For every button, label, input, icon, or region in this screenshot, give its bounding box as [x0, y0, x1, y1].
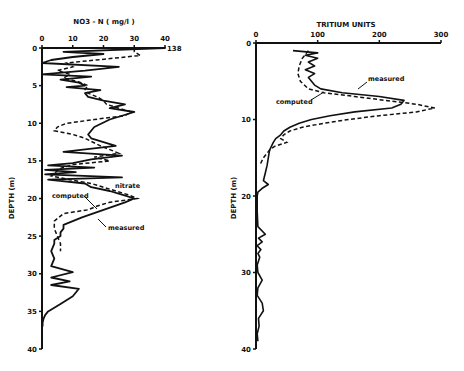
right-y-ticks: 010203040: [241, 40, 256, 354]
x-tick-label: 200: [372, 31, 387, 39]
left-x-axis-title: NO3 - N ( mg/l ): [73, 18, 134, 26]
x-tick-label: 10: [68, 35, 78, 43]
y-tick-label: 30: [27, 270, 37, 278]
left-overflow-label: 138: [167, 45, 182, 53]
right-annotation-measured: measured: [368, 75, 405, 83]
right-x-axis-title: TRITIUM UNITS: [316, 21, 375, 29]
y-tick-label: 15: [27, 157, 37, 165]
x-tick-label: 300: [434, 31, 449, 39]
right-y-axis-title: DEPTH (m): [230, 177, 238, 220]
left-annotation-nitrate: nitrate: [115, 182, 141, 190]
left-annotation-computed: computed: [52, 192, 89, 200]
x-tick-label: 0: [40, 35, 45, 43]
left-x-ticks: 010203040: [40, 35, 170, 48]
figure: NO3 - N ( mg/l ) 010203040 0510152025303…: [0, 0, 464, 371]
nitrate-depth-chart: NO3 - N ( mg/l ) 010203040 0510152025303…: [8, 18, 182, 354]
left-measured-leader: [98, 219, 106, 227]
right-computed-line: [260, 51, 435, 166]
y-tick-label: 30: [241, 269, 251, 277]
y-tick-label: 35: [27, 308, 37, 316]
y-tick-label: 0: [32, 45, 37, 53]
y-tick-label: 40: [241, 346, 251, 354]
x-tick-label: 100: [310, 31, 325, 39]
left-y-axis-title: DEPTH (m): [8, 177, 16, 220]
right-annotation-computed: computed: [276, 98, 313, 106]
y-tick-label: 20: [27, 195, 37, 203]
x-tick-label: 40: [160, 35, 170, 43]
left-annotation-measured: measured: [108, 224, 145, 232]
tritium-depth-chart: TRITIUM UNITS 0100200300 010203040 DEPTH…: [230, 21, 448, 354]
y-tick-label: 0: [246, 40, 251, 48]
x-tick-label: 30: [129, 35, 139, 43]
y-tick-label: 25: [27, 233, 37, 241]
left-y-ticks: 0510152025303540: [27, 45, 42, 354]
right-x-ticks: 0100200300: [254, 31, 449, 43]
y-tick-label: 5: [32, 82, 37, 90]
y-tick-label: 10: [241, 116, 251, 124]
right-measured-leader: [358, 82, 367, 89]
left-measured-line: [42, 48, 165, 326]
y-tick-label: 40: [27, 346, 37, 354]
left-computed-leader: [84, 196, 97, 209]
y-tick-label: 10: [27, 120, 37, 128]
right-computed-leader: [311, 92, 324, 100]
x-tick-label: 20: [99, 35, 109, 43]
x-tick-label: 0: [254, 31, 259, 39]
y-tick-label: 20: [241, 193, 251, 201]
